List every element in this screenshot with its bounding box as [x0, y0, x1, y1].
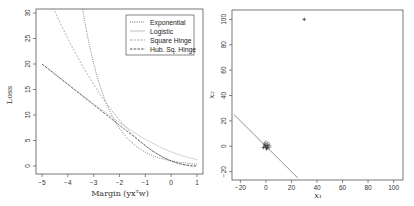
x-tick-label: −4: [64, 179, 72, 186]
y-axis-ticks: −20020406080100: [220, 14, 232, 178]
y-tick-label: 40: [220, 92, 227, 100]
legend-label-huber-square-hinge: Hub. Sq. Hinge: [150, 46, 196, 54]
x-tick-label: −3: [90, 179, 98, 186]
loss-chart: Exponential Logistic Square Hinge Hub. S…: [5, 0, 203, 198]
y-axis-label: x₂: [207, 91, 216, 99]
point-plus: [302, 18, 306, 22]
x-tick-label: 0: [264, 184, 268, 191]
x-tick-label: 40: [313, 184, 321, 191]
series-logistic: [42, 64, 197, 160]
y-tick-label: 25: [24, 35, 31, 43]
x-tick-label: −1: [142, 179, 150, 186]
y-tick-label: 20: [24, 60, 31, 68]
x-tick-label: −20: [235, 184, 246, 191]
legend-label-square-hinge: Square Hinge: [150, 37, 192, 45]
y-tick-label: −20: [220, 166, 227, 177]
plot-area: [234, 18, 306, 178]
x-tick-label: 1: [195, 179, 199, 186]
legend-label-logistic: Logistic: [150, 28, 174, 36]
y-tick-label: 15: [24, 86, 31, 94]
scatter-chart: −20020406080100 −20020406080100 x₁ x₂: [207, 10, 403, 200]
y-axis-ticks: 051015202530: [24, 9, 36, 168]
x-axis-ticks: −5−4−3−2−101: [38, 174, 199, 186]
y-axis-label: Loss: [5, 86, 14, 104]
x-tick-label: −5: [38, 179, 46, 186]
x-tick-label: 20: [288, 184, 296, 191]
x-tick-label: 60: [339, 184, 347, 191]
y-tick-label: 0: [220, 144, 227, 148]
y-tick-label: 60: [220, 66, 227, 74]
x-axis-label: Margin (yxᵀw): [91, 189, 149, 198]
x-axis-ticks: −20020406080100: [235, 180, 400, 191]
y-tick-label: 30: [24, 9, 31, 17]
x-tick-label: 0: [169, 179, 173, 186]
y-tick-label: 0: [24, 164, 31, 168]
y-tick-label: 10: [24, 111, 31, 119]
plot-frame: [232, 10, 403, 180]
x-axis-label: x₁: [314, 191, 322, 200]
y-tick-label: 20: [220, 117, 227, 125]
x-tick-label: 100: [388, 184, 399, 191]
x-tick-label: −2: [116, 179, 124, 186]
y-tick-label: 100: [220, 14, 227, 25]
legend-label-exponential: Exponential: [150, 19, 186, 27]
y-tick-label: 5: [24, 138, 31, 142]
x-tick-label: 80: [364, 184, 372, 191]
series-hub-sq-hinge: [42, 64, 197, 166]
y-tick-label: 80: [220, 41, 227, 49]
figure: Exponential Logistic Square Hinge Hub. S…: [0, 0, 414, 206]
legend: Exponential Logistic Square Hinge Hub. S…: [126, 15, 196, 55]
